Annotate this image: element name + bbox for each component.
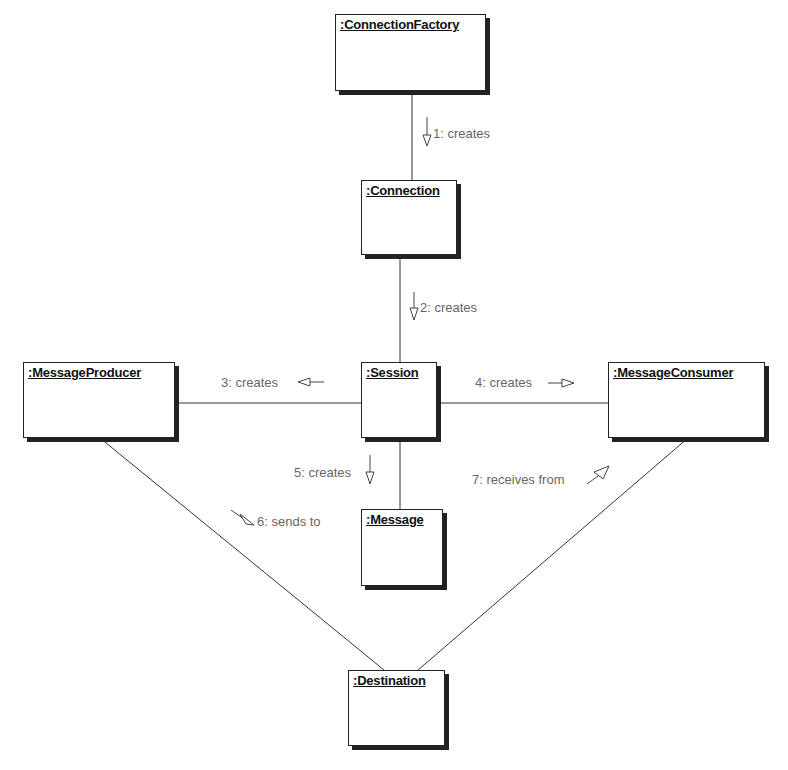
object-connection[interactable]: :Connection: [361, 180, 457, 255]
object-name: :MessageConsumer: [613, 365, 733, 380]
object-connection-factory[interactable]: :ConnectionFactory: [335, 14, 486, 91]
arrow-down-icon: [423, 117, 431, 146]
arrow-left-icon: [298, 378, 324, 386]
message-label-3: 3: creates: [221, 375, 278, 390]
object-session[interactable]: :Session: [361, 362, 437, 438]
object-name: :Session: [366, 365, 419, 380]
object-name: :MessageProducer: [28, 365, 141, 380]
object-name: :Message: [366, 512, 424, 527]
message-label-2: 2: creates: [420, 300, 477, 315]
arrow-down-icon: [410, 292, 418, 320]
message-label-6: 6: sends to: [257, 514, 321, 529]
arrow-down-icon: [366, 455, 374, 484]
object-destination[interactable]: :Destination: [348, 670, 445, 746]
message-label-5: 5: creates: [294, 465, 351, 480]
object-message[interactable]: :Message: [361, 509, 443, 586]
object-message-consumer[interactable]: :MessageConsumer: [608, 362, 765, 438]
message-label-7: 7: receives from: [472, 472, 564, 487]
object-name: :ConnectionFactory: [340, 17, 459, 32]
object-name: :Connection: [366, 183, 440, 198]
object-name: :Destination: [353, 673, 426, 688]
object-message-producer[interactable]: :MessageProducer: [23, 362, 175, 438]
arrow-up-right-icon: [587, 466, 609, 484]
message-label-4: 4: creates: [475, 375, 532, 390]
arrow-down-right-icon: [231, 510, 254, 525]
arrow-right-icon: [548, 379, 574, 387]
message-label-1: 1: creates: [433, 126, 490, 141]
